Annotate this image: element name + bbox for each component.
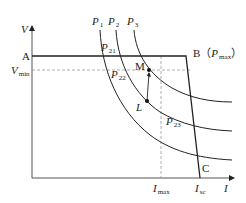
p1-var: P: [92, 15, 99, 27]
curve-p2-label: P2: [108, 16, 119, 29]
p21-var: P: [101, 41, 108, 53]
point-m: [147, 68, 151, 72]
imax-var: I: [153, 182, 157, 194]
p23-label: P23: [166, 116, 181, 129]
pmax-sub: max: [219, 53, 231, 61]
p22-sub: 22: [119, 74, 126, 82]
power-curve-p3: [134, 30, 232, 102]
point-l: [145, 99, 149, 103]
b-close-paren: ）: [231, 47, 242, 59]
x-axis-label: I: [224, 183, 228, 194]
vmin-var: V: [11, 64, 18, 76]
vmin-label: Vmin: [11, 65, 30, 78]
b-open-paren: （: [200, 47, 211, 59]
imax-sub: max: [158, 188, 170, 196]
y-axis-label: V: [21, 24, 28, 35]
isc-sub: sc: [200, 188, 206, 196]
p23-sub: 23: [174, 121, 181, 129]
p22-label: P22: [111, 69, 126, 82]
isc-var: I: [195, 182, 199, 194]
p2-var: P: [108, 15, 115, 27]
point-c-label: C: [202, 163, 209, 174]
point-b-label: B（Pmax）: [193, 48, 242, 61]
point-m-label: M: [135, 61, 145, 72]
p21-label: P21: [101, 42, 116, 55]
p3-var: P: [127, 15, 134, 27]
l-to-m-arrow: [147, 73, 149, 101]
imax-label: Imax: [153, 183, 170, 196]
p22-var: P: [111, 68, 118, 80]
curve-p3-label: P3: [127, 16, 138, 29]
point-l-label: L: [136, 102, 142, 113]
p2-sub: 2: [116, 21, 120, 29]
point-a-label: A: [22, 51, 30, 62]
vmin-sub: min: [19, 70, 30, 78]
pmax-var: P: [211, 47, 218, 59]
isc-label: Isc: [195, 183, 206, 196]
p1-sub: 1: [100, 21, 104, 29]
curve-p1-label: P1: [92, 16, 103, 29]
p23-var: P: [166, 115, 173, 127]
p21-sub: 21: [109, 47, 116, 55]
p3-sub: 3: [135, 21, 139, 29]
